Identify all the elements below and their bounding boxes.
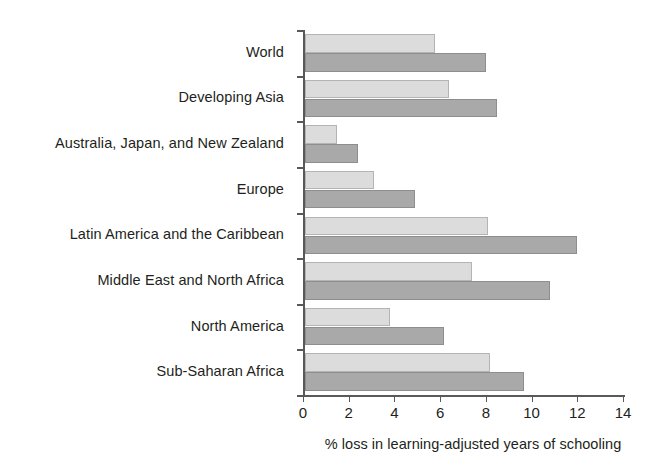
bar-group (305, 121, 625, 167)
x-tick (440, 395, 441, 402)
x-tick (486, 395, 487, 402)
x-axis-title: % loss in learning-adjusted years of sch… (293, 436, 653, 452)
bar-group (305, 167, 625, 213)
bar-series-1 (305, 34, 435, 53)
y-tick-stub (297, 76, 303, 78)
bar-series-1 (305, 171, 374, 190)
bar-series-1 (305, 353, 490, 372)
bar-series-2 (305, 236, 577, 255)
y-tick-stub (297, 121, 303, 123)
category-axis-labels: World Developing Asia Australia, Japan, … (0, 30, 293, 395)
bar-series-1 (305, 80, 449, 99)
bar-series-2 (305, 281, 550, 300)
bar-group (305, 349, 625, 395)
bar-group (305, 213, 625, 259)
x-tick-label: 0 (283, 404, 323, 421)
bar-series-2 (305, 99, 497, 118)
y-tick-stub (297, 258, 303, 260)
y-tick-stub (297, 395, 303, 397)
y-tick-stub (297, 167, 303, 169)
bar-group (305, 30, 625, 76)
bar-series-2 (305, 53, 486, 72)
x-tick (394, 395, 395, 402)
x-tick-label: 10 (512, 404, 552, 421)
bar-series-2 (305, 190, 415, 209)
x-tick (577, 395, 578, 402)
bar-series-1 (305, 262, 472, 281)
bar-group (305, 304, 625, 350)
x-tick (623, 395, 624, 402)
bar-group (305, 76, 625, 122)
x-tick-label: 8 (466, 404, 506, 421)
bar-series-2 (305, 372, 524, 391)
category-label: Latin America and the Caribbean (0, 213, 293, 259)
x-tick-label: 4 (374, 404, 414, 421)
x-tick (349, 395, 350, 402)
x-tick (303, 395, 304, 402)
x-tick (532, 395, 533, 402)
bar-series-1 (305, 217, 488, 236)
bar-series-1 (305, 125, 337, 144)
y-tick-stub (297, 30, 303, 32)
bar-series-1 (305, 308, 390, 327)
bar-series-2 (305, 327, 444, 346)
bar-chart-figure: World Developing Asia Australia, Japan, … (0, 0, 659, 474)
category-label: North America (0, 304, 293, 350)
category-label: Middle East and North Africa (0, 258, 293, 304)
category-label: Europe (0, 167, 293, 213)
category-label: Developing Asia (0, 76, 293, 122)
category-label: Sub-Saharan Africa (0, 349, 293, 395)
x-tick-label: 12 (557, 404, 597, 421)
y-tick-stub (297, 304, 303, 306)
x-tick-label: 2 (329, 404, 369, 421)
bar-group (305, 258, 625, 304)
x-tick-label: 6 (420, 404, 460, 421)
x-tick-label: 14 (603, 404, 643, 421)
category-label: World (0, 30, 293, 76)
y-tick-stub (297, 349, 303, 351)
plot-area (303, 30, 625, 395)
bar-series-2 (305, 144, 358, 163)
y-tick-stub (297, 213, 303, 215)
category-label: Australia, Japan, and New Zealand (0, 121, 293, 167)
